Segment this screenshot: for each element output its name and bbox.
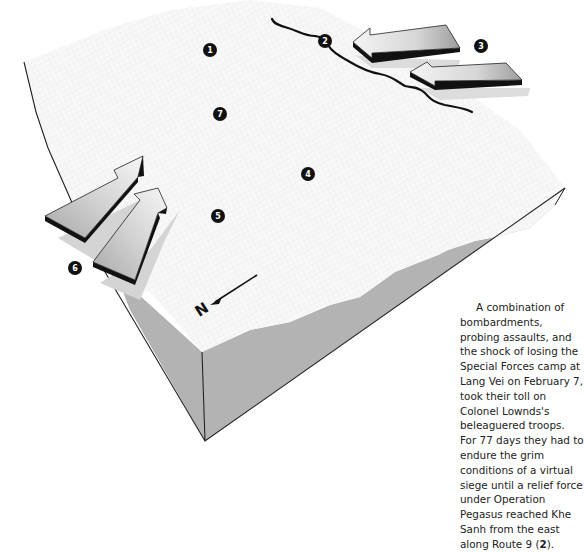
- caption-line: Lang Vei on February 7,: [460, 374, 583, 389]
- marker-5: 5: [211, 209, 225, 223]
- caption-line: probing assaults, and: [460, 330, 583, 345]
- caption-line: Sanh from the east: [460, 522, 583, 537]
- marker-1: 1: [203, 43, 217, 57]
- caption-line: Pegasus reached Khe: [460, 507, 583, 522]
- caption-line: For 77 days they had to: [460, 433, 583, 448]
- marker-3: 3: [474, 39, 488, 53]
- marker-2: 2: [318, 34, 332, 48]
- caption-route-ref: 2: [540, 538, 547, 550]
- caption-line: A combination of: [460, 300, 583, 315]
- svg-text:6: 6: [72, 264, 78, 273]
- arrow-east-upper-icon: [353, 25, 460, 63]
- svg-text:1: 1: [207, 46, 213, 55]
- caption-line: the shock of losing the: [460, 344, 583, 359]
- caption-last-prefix: along Route 9 (: [460, 538, 540, 550]
- caption-line: took their toll on: [460, 389, 583, 404]
- marker-6: 6: [68, 261, 82, 275]
- marker-4: 4: [301, 167, 315, 181]
- caption-line: Colonel Lownds's: [460, 404, 583, 419]
- svg-text:4: 4: [305, 170, 311, 179]
- caption-line: under Operation: [460, 492, 583, 507]
- caption-last-suffix: ).: [547, 538, 554, 550]
- marker-7: 7: [213, 107, 227, 121]
- svg-text:2: 2: [322, 37, 328, 46]
- caption-text: A combination of bombardments, probing a…: [460, 300, 583, 552]
- caption-line: Special Forces camp at: [460, 359, 583, 374]
- caption-last-line: along Route 9 (2).: [460, 537, 583, 552]
- svg-text:3: 3: [478, 42, 484, 51]
- svg-text:7: 7: [217, 110, 223, 119]
- caption-line: beleaguered troops.: [460, 418, 583, 433]
- svg-text:5: 5: [215, 212, 221, 221]
- caption-line: conditions of a virtual: [460, 463, 583, 478]
- caption-line: endure the grim: [460, 448, 583, 463]
- caption-line: siege until a relief force: [460, 478, 583, 493]
- caption-line: bombardments,: [460, 315, 583, 330]
